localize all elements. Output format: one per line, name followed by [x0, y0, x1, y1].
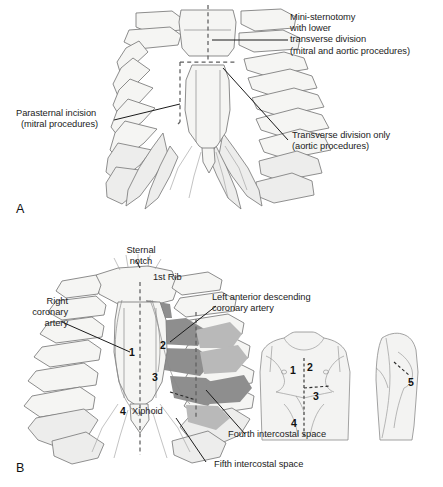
torso-front-number-1: 1	[290, 364, 296, 376]
torso-front-view	[260, 332, 350, 440]
xiphoid-label: Xiphoid	[132, 406, 163, 417]
first-rib-label: 1st Rib	[153, 272, 182, 283]
panel-b-ribcage	[24, 254, 254, 464]
panel-letter-a: A	[16, 202, 24, 216]
anatomy-illustration: .bone { fill:#f5f5f3; stroke:#787878; st…	[0, 0, 443, 487]
fourth-intercostal-space-label: Fourth intercostal space	[228, 429, 326, 440]
incision-number-2: 2	[160, 339, 166, 351]
right-coronary-artery-label: Rightcoronaryartery	[0, 296, 68, 330]
sternal-notch-label: Sternalnotch	[113, 245, 169, 267]
parasternal-incision-label: Parasternal incision(mitral procedures)	[16, 108, 98, 130]
torso-front-number-3: 3	[313, 390, 319, 402]
lad-coronary-artery-label: Left anterior descendingcoronary artery	[212, 292, 311, 314]
incision-number-4: 4	[120, 405, 126, 417]
panel-letter-b: B	[16, 461, 24, 475]
figure-root: .bone { fill:#f5f5f3; stroke:#787878; st…	[0, 0, 443, 487]
incision-number-3: 3	[152, 371, 158, 383]
mini-sternotomy-label: Mini-sternotomywith lowertransverse divi…	[290, 12, 410, 57]
torso-front-number-4: 4	[291, 417, 297, 429]
transverse-division-label: Transverse division only(aortic procedur…	[292, 130, 390, 152]
incision-number-1: 1	[129, 346, 135, 358]
fifth-intercostal-space-label: Fifth intercostal space	[214, 459, 303, 470]
torso-front-number-2: 2	[307, 361, 313, 373]
torso-lateral-number-5: 5	[408, 376, 414, 388]
